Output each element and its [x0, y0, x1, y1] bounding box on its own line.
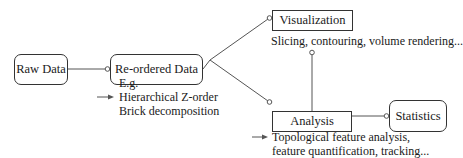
reordered-note: E.g. Hierarchical Z-order Brick decompos… — [119, 76, 219, 118]
node-raw-data: Raw Data — [14, 54, 68, 85]
edge-end-marker-icon — [310, 50, 315, 55]
node-label: Visualization — [280, 13, 346, 28]
note-line: Slicing, contouring, volume rendering... — [271, 34, 463, 48]
edge-end-marker-icon — [267, 100, 272, 105]
node-label: Re-ordered Data — [115, 62, 198, 77]
node-statistics: Statistics — [389, 100, 447, 132]
visualization-note: Slicing, contouring, volume rendering... — [271, 34, 463, 48]
node-label: Analysis — [290, 114, 334, 129]
right-arrow-icon — [97, 95, 114, 100]
note-line: feature quantification, tracking... — [272, 144, 429, 158]
analysis-note: Topological feature analysis, feature qu… — [272, 130, 429, 158]
right-arrow-icon — [252, 135, 268, 140]
note-line: Topological feature analysis, — [272, 130, 429, 144]
note-line: Brick decomposition — [119, 104, 219, 118]
node-analysis: Analysis — [272, 111, 352, 132]
node-label: Statistics — [395, 109, 440, 124]
node-visualization: Visualization — [272, 10, 353, 31]
note-line: Hierarchical Z-order — [119, 90, 219, 104]
note-line: E.g. — [119, 76, 219, 90]
edge-reordered-to-visualization — [210, 19, 268, 60]
node-label: Raw Data — [16, 62, 66, 77]
